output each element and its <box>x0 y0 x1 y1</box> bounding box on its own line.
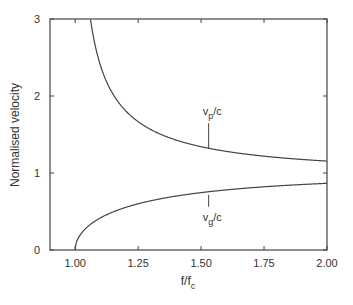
series-label: vp/c <box>203 105 223 121</box>
curve-vg <box>75 183 327 250</box>
plot-area <box>50 19 327 250</box>
x-axis-label: f/fc <box>181 274 196 291</box>
plot-frame <box>50 19 327 250</box>
x-tick-label: 2.00 <box>316 257 337 269</box>
y-axis-label: Normalised velocity <box>8 83 22 187</box>
x-tick-label: 1.75 <box>253 257 274 269</box>
x-tick-label: 1.25 <box>127 257 148 269</box>
x-axis-ticks: 1.001.251.501.752.00 <box>64 19 337 269</box>
y-axis-ticks: 0123 <box>34 13 327 256</box>
y-tick-label: 3 <box>34 13 40 25</box>
y-tick-label: 2 <box>34 90 40 102</box>
series-label: vg/c <box>203 211 223 227</box>
x-tick-label: 1.50 <box>190 257 211 269</box>
curve-annotations: vp/cvg/c <box>203 105 223 226</box>
x-tick-label: 1.00 <box>64 257 85 269</box>
y-tick-label: 1 <box>34 167 40 179</box>
y-tick-label: 0 <box>34 244 40 256</box>
chart: 1.001.251.501.752.00 0123 f/fc Normalise… <box>0 0 353 305</box>
